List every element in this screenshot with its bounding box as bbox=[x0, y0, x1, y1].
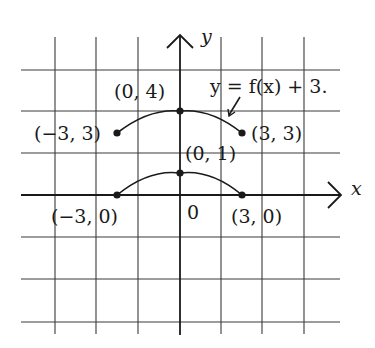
label-neg3-0: (−3, 0) bbox=[51, 205, 118, 227]
point-neg3-3 bbox=[113, 129, 120, 136]
coordinate-graph: y x 0 (−3, 0) (0, 1) (3, 0) (−3, 3) (0, … bbox=[0, 0, 375, 348]
point-0-1 bbox=[176, 169, 183, 176]
point-3-3 bbox=[238, 129, 245, 136]
label-3-0: (3, 0) bbox=[231, 205, 282, 227]
curve-annotation: y = f(x) + 3. bbox=[209, 75, 327, 97]
point-3-0 bbox=[238, 191, 245, 198]
origin-label: 0 bbox=[187, 201, 199, 223]
y-axis-label: y bbox=[200, 25, 212, 47]
labels: y x 0 (−3, 0) (0, 1) (3, 0) (−3, 3) (0, … bbox=[34, 25, 362, 227]
label-3-3: (3, 3) bbox=[251, 122, 302, 144]
x-axis-label: x bbox=[351, 177, 362, 199]
point-neg3-0 bbox=[113, 191, 120, 198]
label-neg3-3: (−3, 3) bbox=[34, 122, 101, 144]
point-0-4 bbox=[176, 107, 183, 114]
label-0-4: (0, 4) bbox=[114, 80, 165, 102]
label-0-1: (0, 1) bbox=[185, 142, 236, 164]
